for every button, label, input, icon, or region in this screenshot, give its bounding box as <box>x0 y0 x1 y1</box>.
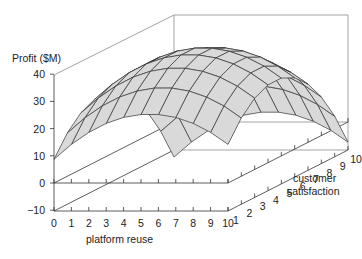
y-axis-label-line1: customer <box>293 172 337 184</box>
x-tick-label: 3 <box>103 217 109 229</box>
y-tick-label: 3 <box>260 200 266 212</box>
y-tick-label: 2 <box>246 207 252 219</box>
z-tick-label: 20 <box>33 123 45 135</box>
surface-mesh <box>54 48 348 159</box>
z-axis-label: Profit ($M) <box>12 52 61 64</box>
x-tick-label: 1 <box>68 217 74 229</box>
x-axis-label: platform reuse <box>86 233 153 245</box>
x-tick-label: 6 <box>155 217 161 229</box>
y-tick-label: 9 <box>340 160 346 172</box>
y-axis-label-line2: satisfaction <box>287 185 340 197</box>
profit-surface-chart: 403020100−1001234567891012345678910 Prof… <box>0 0 362 259</box>
x-tick-label: 9 <box>208 217 214 229</box>
x-tick-label: 4 <box>121 217 127 229</box>
x-tick-label: 7 <box>173 217 179 229</box>
x-tick-label: 0 <box>51 217 57 229</box>
z-tick-label: 10 <box>33 150 45 162</box>
z-tick-label: −10 <box>27 204 45 216</box>
z-tick-label: 0 <box>39 177 45 189</box>
x-tick-label: 2 <box>86 217 92 229</box>
y-tick-label: 4 <box>273 194 279 206</box>
x-tick-label: 5 <box>138 217 144 229</box>
y-tick-label: 1 <box>233 214 239 226</box>
z-tick-label: 30 <box>33 95 45 107</box>
z-tick-label: 40 <box>33 68 45 80</box>
x-tick-label: 8 <box>190 217 196 229</box>
y-tick-label: 10 <box>350 153 362 165</box>
